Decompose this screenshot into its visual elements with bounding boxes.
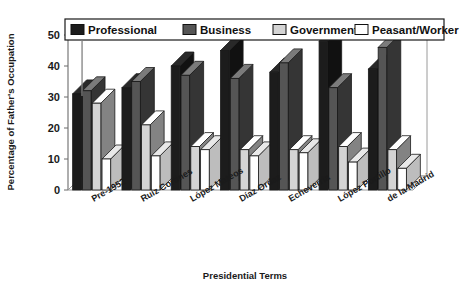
bar-front-face — [221, 51, 230, 191]
y-axis-ticks: 01020304050 — [48, 29, 68, 196]
legend-swatch — [273, 25, 286, 35]
y-tick-label: 30 — [48, 91, 60, 103]
bar-front-face — [82, 91, 91, 190]
legend-swatch — [71, 25, 84, 35]
y-tick-label: 10 — [48, 153, 60, 165]
y-tick-label: 20 — [48, 122, 60, 134]
y-tick-label: 0 — [54, 184, 60, 196]
bar-front-face — [73, 94, 82, 190]
legend-item: Government — [273, 24, 358, 36]
legend-item: Professional — [71, 24, 157, 36]
plot-area: 01020304050Pre-1952Ruiz CortinesLópez Ma… — [5, 19, 459, 281]
bar-front-face — [339, 147, 348, 190]
legend-label: Government — [290, 24, 358, 36]
bar-front-face — [132, 82, 141, 191]
legend-label: Business — [200, 24, 251, 36]
x-axis-title: Presidential Terms — [203, 270, 287, 281]
legend: ProfessionalBusinessGovernmentPeasant/Wo… — [65, 19, 459, 40]
bar-chart-figure: 01020304050Pre-1952Ruiz CortinesLópez Ma… — [0, 0, 466, 290]
legend-label: Peasant/Worker — [372, 24, 459, 36]
bar-front-face — [122, 88, 131, 190]
legend-item: Business — [183, 24, 251, 36]
legend-label: Professional — [88, 24, 157, 36]
legend-swatch — [183, 25, 196, 35]
y-axis-title: Percentage of Father's Occupation — [5, 33, 16, 190]
bar-front-face — [191, 147, 200, 190]
bar-front-face — [280, 63, 289, 190]
y-tick-label: 50 — [48, 29, 60, 41]
bar-front-face — [329, 88, 338, 190]
legend-swatch — [355, 25, 368, 35]
bar-front-face — [319, 41, 328, 190]
y-tick-label: 40 — [48, 60, 60, 72]
bar-front-face — [142, 125, 151, 190]
chart-canvas: 01020304050Pre-1952Ruiz CortinesLópez Ma… — [0, 0, 466, 290]
bar-front-face — [92, 103, 101, 190]
bar-front-face — [289, 150, 298, 190]
